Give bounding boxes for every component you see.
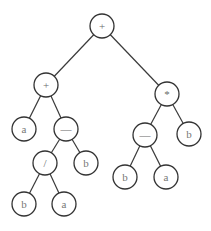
tree-node: + [34, 73, 58, 97]
node-label: * [164, 88, 170, 100]
tree-canvas: ++*a—/bba—bba [0, 0, 211, 231]
tree-node: / [33, 151, 57, 175]
node-label: — [139, 129, 152, 141]
node-label: b [21, 198, 27, 210]
tree-node: — [133, 123, 157, 147]
node-label: + [43, 79, 49, 91]
tree-node: b [113, 165, 137, 189]
node-label: + [99, 20, 105, 32]
node-label: b [122, 171, 128, 183]
tree-node: b [12, 192, 36, 216]
tree-edge [102, 26, 167, 94]
node-label: b [83, 157, 89, 169]
tree-node: b [177, 122, 201, 146]
tree-nodes: ++*a—/bba—bba [12, 14, 201, 216]
tree-node: a [12, 117, 36, 141]
tree-node: a [154, 165, 178, 189]
expression-tree-diagram: ++*a—/bba—bba [0, 0, 211, 231]
tree-node: a [52, 192, 76, 216]
node-label: b [186, 128, 192, 140]
node-label: a [22, 123, 27, 135]
tree-node: — [54, 117, 78, 141]
tree-node: * [155, 82, 179, 106]
node-label: a [164, 171, 169, 183]
tree-node: + [90, 14, 114, 38]
node-label: a [62, 198, 67, 210]
tree-node: b [74, 151, 98, 175]
node-label: — [60, 123, 73, 135]
